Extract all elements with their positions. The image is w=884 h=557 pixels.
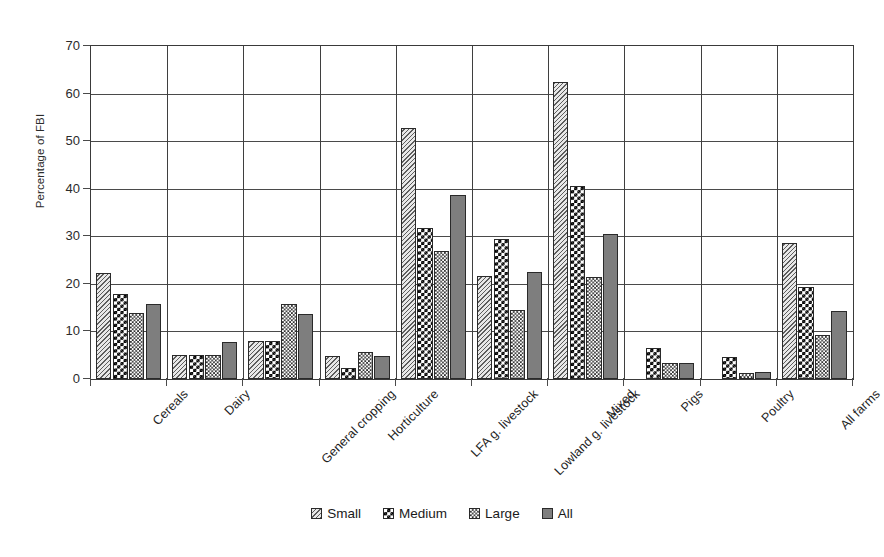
bar bbox=[510, 310, 525, 379]
bar bbox=[603, 234, 618, 379]
bar bbox=[831, 311, 846, 379]
legend-swatch-icon bbox=[469, 508, 480, 519]
legend-label: Large bbox=[485, 506, 520, 521]
legend-swatch-icon bbox=[542, 508, 553, 519]
bar-group bbox=[91, 46, 167, 379]
legend-swatch-icon bbox=[383, 508, 394, 519]
bar-group bbox=[472, 46, 548, 379]
bar bbox=[679, 363, 694, 379]
y-axis-tick-mark bbox=[83, 235, 90, 236]
x-axis-tick-mark bbox=[90, 378, 91, 386]
x-axis-tick-mark bbox=[547, 378, 548, 386]
y-axis-tick-mark bbox=[83, 140, 90, 141]
x-axis-category-label: Pigs bbox=[678, 387, 706, 415]
bar bbox=[494, 239, 509, 379]
x-axis-tick-mark bbox=[776, 378, 777, 386]
bar-chart: Percentage of FBI 010203040506070 Cereal… bbox=[0, 0, 884, 557]
y-axis-tick-label: 20 bbox=[40, 275, 80, 290]
bar bbox=[374, 356, 389, 379]
x-axis-category-label: General cropping bbox=[318, 387, 397, 466]
bar-group bbox=[167, 46, 243, 379]
plot-area bbox=[90, 45, 854, 380]
x-axis-tick-mark bbox=[242, 378, 243, 386]
y-axis-tick-label: 10 bbox=[40, 323, 80, 338]
bar bbox=[586, 277, 601, 379]
bar bbox=[662, 363, 677, 379]
bar-group bbox=[624, 46, 700, 379]
legend-item[interactable]: All bbox=[542, 506, 573, 521]
y-axis-tick-label: 0 bbox=[40, 371, 80, 386]
legend-item[interactable]: Medium bbox=[383, 506, 447, 521]
x-axis-tick-mark bbox=[395, 378, 396, 386]
bar bbox=[222, 342, 237, 379]
bar bbox=[248, 341, 263, 379]
bar bbox=[477, 276, 492, 379]
y-axis-tick-mark bbox=[83, 45, 90, 46]
bar bbox=[553, 82, 568, 379]
bar bbox=[815, 335, 830, 379]
x-axis-tick-mark bbox=[166, 378, 167, 386]
y-axis-tick-mark bbox=[83, 188, 90, 189]
bar bbox=[189, 355, 204, 379]
bar bbox=[646, 348, 661, 379]
bar bbox=[450, 195, 465, 379]
bar bbox=[205, 355, 220, 379]
bar-group bbox=[701, 46, 777, 379]
y-axis-tick-label: 40 bbox=[40, 180, 80, 195]
x-axis-tick-mark bbox=[623, 378, 624, 386]
x-axis-category-label: Cereals bbox=[150, 387, 191, 428]
bar bbox=[527, 272, 542, 379]
y-axis-tick-label: 70 bbox=[40, 38, 80, 53]
legend-item[interactable]: Large bbox=[469, 506, 520, 521]
x-axis-tick-mark bbox=[700, 378, 701, 386]
legend-label: Medium bbox=[399, 506, 447, 521]
legend-label: Small bbox=[327, 506, 361, 521]
bar bbox=[298, 314, 313, 379]
y-axis-tick-label: 30 bbox=[40, 228, 80, 243]
legend-label: All bbox=[558, 506, 573, 521]
bar bbox=[722, 357, 737, 379]
bar bbox=[570, 186, 585, 379]
bar-group bbox=[548, 46, 624, 379]
bar bbox=[172, 355, 187, 379]
bar bbox=[96, 273, 111, 379]
bar bbox=[146, 304, 161, 379]
y-axis-tick-mark bbox=[83, 93, 90, 94]
y-axis-tick-mark bbox=[83, 378, 90, 379]
bar-group bbox=[777, 46, 853, 379]
chart-legend: SmallMediumLargeAll bbox=[0, 506, 884, 521]
bar bbox=[265, 341, 280, 379]
x-axis-category-label: All farms bbox=[838, 387, 883, 432]
bar bbox=[782, 243, 797, 379]
legend-item[interactable]: Small bbox=[311, 506, 361, 521]
y-axis-tick-mark bbox=[83, 330, 90, 331]
bar bbox=[417, 228, 432, 379]
bar-group bbox=[320, 46, 396, 379]
legend-swatch-icon bbox=[311, 508, 322, 519]
bar bbox=[281, 304, 296, 379]
bar bbox=[434, 251, 449, 379]
x-axis-category-label: Poultry bbox=[759, 387, 797, 425]
bar bbox=[325, 356, 340, 379]
bar bbox=[129, 313, 144, 379]
x-axis-tick-mark bbox=[319, 378, 320, 386]
x-axis-category-label: LFA g. livestock bbox=[468, 387, 541, 460]
x-axis-tick-mark bbox=[471, 378, 472, 386]
bar bbox=[341, 368, 356, 379]
bar-group bbox=[396, 46, 472, 379]
y-axis-tick-label: 60 bbox=[40, 85, 80, 100]
bar bbox=[358, 352, 373, 379]
bar bbox=[401, 128, 416, 379]
bar-group bbox=[243, 46, 319, 379]
bar bbox=[739, 373, 754, 379]
x-axis-category-label: Dairy bbox=[222, 387, 253, 418]
bar bbox=[798, 287, 813, 379]
y-axis-tick-mark bbox=[83, 283, 90, 284]
bar bbox=[755, 372, 770, 379]
y-axis-tick-label: 50 bbox=[40, 133, 80, 148]
bar bbox=[113, 294, 128, 379]
x-axis-tick-mark bbox=[852, 378, 853, 386]
